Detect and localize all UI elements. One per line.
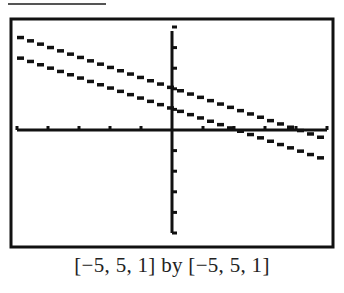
window-settings-caption: [−5, 5, 1] by [−5, 5, 1] <box>0 253 344 278</box>
calculator-graph-window <box>0 0 344 250</box>
axes <box>17 27 327 233</box>
